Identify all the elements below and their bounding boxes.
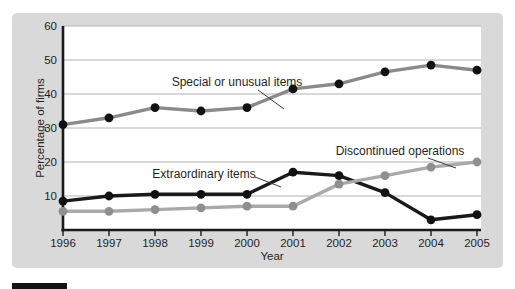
series-annotation-label: Special or unusual items <box>172 75 303 89</box>
data-point <box>197 190 206 199</box>
x-tick-label: 1998 <box>142 237 168 249</box>
data-point <box>335 171 344 180</box>
y-tick-label: 10 <box>44 190 57 202</box>
data-point <box>473 158 482 167</box>
x-tick-label: 1999 <box>188 237 214 249</box>
x-tick-label: 2004 <box>418 237 444 249</box>
data-point <box>335 79 344 88</box>
x-tick-label: 1997 <box>96 237 122 249</box>
data-point <box>289 168 298 177</box>
data-point <box>151 190 160 199</box>
series-annotation-label: Discontinued operations <box>336 144 465 158</box>
y-tick-label: 30 <box>44 122 57 134</box>
y-tick-label: 60 <box>44 20 57 32</box>
data-point <box>335 180 344 189</box>
y-tick-label: 40 <box>44 88 57 100</box>
x-tick-label: 2003 <box>372 237 398 249</box>
data-point <box>243 202 252 211</box>
data-point <box>197 107 206 116</box>
page: 1020304050601996199719981999200020012002… <box>0 0 515 289</box>
series-annotation-label: Extraordinary items <box>152 167 255 181</box>
data-point <box>105 113 114 122</box>
data-point <box>243 103 252 112</box>
x-tick-label: 2001 <box>280 237 306 249</box>
data-point <box>381 188 390 197</box>
figure-caption-bar <box>12 283 67 289</box>
y-axis-title: Percentage of firms <box>34 78 46 178</box>
line-chart: 1020304050601996199719981999200020012002… <box>0 0 515 289</box>
data-point <box>151 103 160 112</box>
data-point <box>427 215 436 224</box>
data-point <box>59 120 68 129</box>
x-tick-label: 2000 <box>234 237 260 249</box>
data-point <box>289 202 298 211</box>
data-point <box>197 204 206 213</box>
data-point <box>105 192 114 201</box>
data-point <box>59 207 68 216</box>
x-tick-label: 1996 <box>50 237 76 249</box>
data-point <box>381 68 390 77</box>
data-point <box>473 210 482 219</box>
x-tick-label: 2002 <box>326 237 352 249</box>
data-point <box>243 190 252 199</box>
data-point <box>427 163 436 172</box>
data-point <box>151 205 160 214</box>
data-point <box>473 66 482 75</box>
x-axis-title: Year <box>260 250 283 262</box>
x-tick-label: 2005 <box>464 237 490 249</box>
data-point <box>105 207 114 216</box>
y-tick-label: 20 <box>44 156 57 168</box>
data-point <box>59 197 68 206</box>
data-point <box>427 61 436 70</box>
y-tick-label: 50 <box>44 54 57 66</box>
data-point <box>381 171 390 180</box>
